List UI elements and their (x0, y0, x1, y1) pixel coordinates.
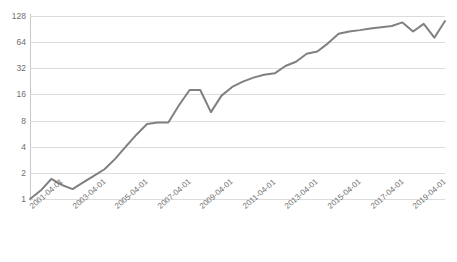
x-tick-label: 2011-04-01 (241, 178, 277, 211)
x-tick-label: 2003-04-01 (71, 177, 108, 211)
x-axis-labels: 2001-04-012003-04-012005-04-012007-04-01… (0, 0, 457, 262)
x-tick-label: 2019-04-01 (411, 177, 448, 211)
x-tick-label: 2007-04-01 (156, 177, 193, 211)
x-tick-label: 2001-04-01 (28, 177, 65, 211)
x-tick-label: 2009-04-01 (198, 177, 235, 211)
x-tick-label: 2015-04-01 (326, 177, 363, 211)
line-chart: 1286432168421 2001-04-012003-04-012005-0… (0, 0, 457, 262)
x-tick-label: 2013-04-01 (283, 177, 320, 211)
x-tick-label: 2005-04-01 (113, 177, 150, 211)
x-tick-label: 2017-04-01 (369, 177, 406, 211)
